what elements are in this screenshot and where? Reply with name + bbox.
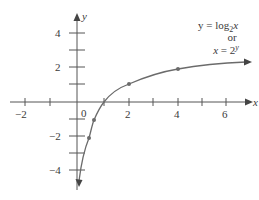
point-half-neg1 xyxy=(92,118,96,122)
y-tick-label-2: 2 xyxy=(55,61,61,73)
log2-curve xyxy=(76,59,253,188)
x-tick-label-4: 4 xyxy=(174,108,180,120)
x-tick-label-6: 6 xyxy=(222,108,228,120)
origin-label: 0 xyxy=(81,107,87,119)
x-tick-label-neg2: −2 xyxy=(15,108,27,120)
point-quarter-neg2 xyxy=(87,136,91,140)
point-2-1 xyxy=(127,82,131,86)
y-tick-label-neg4: −4 xyxy=(49,164,61,176)
x-axis-arrow-icon xyxy=(245,99,253,106)
y-axis-label: y xyxy=(81,10,87,22)
x-tick-label-2: 2 xyxy=(125,108,131,120)
x-axis: −2 0 2 4 6 x xyxy=(10,96,258,120)
equation-or: or xyxy=(227,31,237,43)
y-axis-arrow-icon xyxy=(74,13,81,21)
log2-graph: −2 0 2 4 6 x 4 2 −2 −4 y xyxy=(0,0,259,200)
equation-line2: x = 2y xyxy=(212,43,239,56)
y-tick-label-4: 4 xyxy=(55,27,61,39)
curve-right-arrow-icon xyxy=(244,59,252,66)
point-4-2 xyxy=(176,67,180,71)
y-tick-label-neg2: −2 xyxy=(49,130,61,142)
x-axis-label: x xyxy=(252,96,258,108)
equation-annotation: y = log2x or x = 2y xyxy=(198,19,239,56)
